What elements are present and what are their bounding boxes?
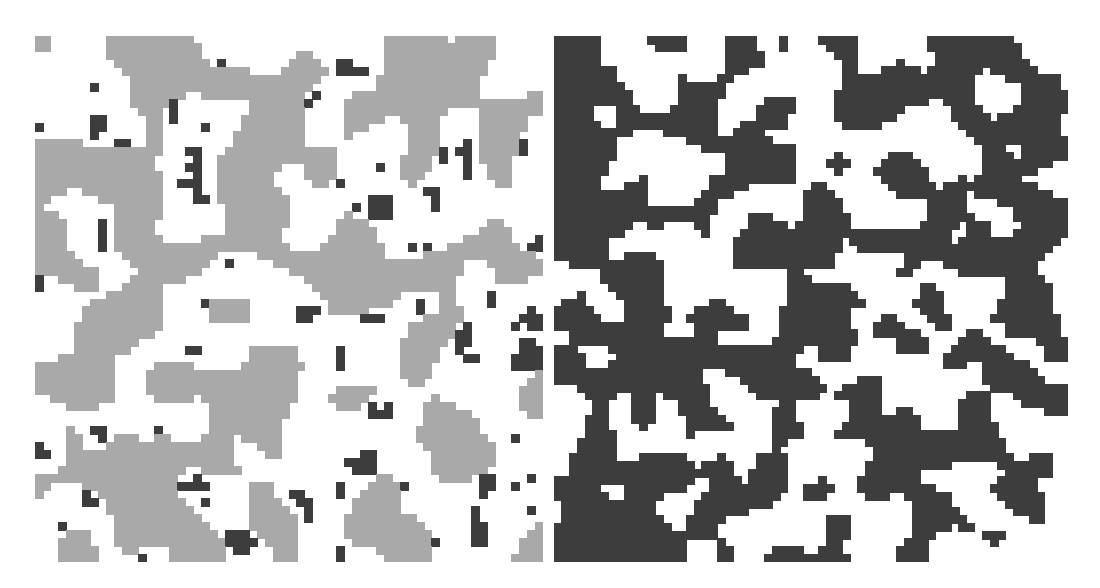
right-panel-simulation-image (554, 36, 1068, 562)
right-lattice-canvas (554, 36, 1068, 562)
left-panel-simulation-image (35, 36, 543, 562)
left-lattice-canvas (35, 36, 543, 562)
